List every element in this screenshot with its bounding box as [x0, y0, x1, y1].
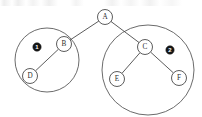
group-badges: 1 2 — [33, 43, 174, 54]
node-a[interactable]: A — [98, 10, 113, 25]
node-c-label: C — [143, 43, 148, 51]
node-b-label: B — [62, 40, 67, 48]
node-c[interactable]: C — [138, 40, 153, 55]
group-badge-2[interactable]: 2 — [166, 46, 174, 54]
node-f-label: F — [177, 74, 181, 82]
edge-c-e — [122, 53, 140, 74]
node-e-label: E — [115, 75, 120, 83]
group-boundaries — [15, 25, 194, 115]
group-badge-1[interactable]: 1 — [33, 43, 41, 51]
node-b[interactable]: B — [57, 37, 72, 52]
edge-c-f — [151, 52, 174, 73]
node-f[interactable]: F — [172, 71, 187, 86]
node-a-label: A — [102, 13, 108, 21]
edge-a-b — [70, 21, 98, 40]
edge-b-d — [35, 49, 58, 71]
tree-diagram-svg: A B C D E F — [0, 0, 202, 117]
node-d-label: D — [27, 72, 32, 80]
edge-a-c — [111, 22, 139, 43]
node-e[interactable]: E — [110, 72, 125, 87]
tree-nodes: A B C D E F — [23, 10, 187, 87]
node-d[interactable]: D — [23, 69, 38, 84]
tree-diagram-canvas: A B C D E F — [0, 0, 202, 117]
group-circle-2 — [102, 25, 194, 115]
